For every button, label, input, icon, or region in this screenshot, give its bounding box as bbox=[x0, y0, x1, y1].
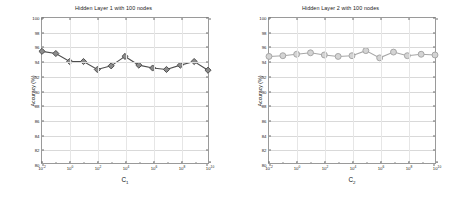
x-axis-tick-mark bbox=[437, 18, 438, 20]
gridline-vertical bbox=[381, 18, 382, 163]
data-point-marker bbox=[391, 49, 397, 55]
y-axis-tick-mark bbox=[433, 47, 435, 48]
gridline-horizontal bbox=[42, 62, 208, 63]
figure-two-panel-accuracy: Hidden Layer 1 with 100 nodes Accuracy (… bbox=[0, 0, 454, 198]
x-axis-tick-mark bbox=[126, 18, 127, 20]
x-axis-tick-mark bbox=[381, 18, 382, 20]
y-axis-tick-mark bbox=[269, 91, 271, 92]
gridline-vertical bbox=[182, 18, 183, 163]
gridline-horizontal bbox=[269, 136, 435, 137]
series-line-diamond bbox=[42, 18, 208, 163]
gridline-horizontal bbox=[42, 77, 208, 78]
gridline-horizontal bbox=[269, 62, 435, 63]
y-axis-tick-mark bbox=[206, 62, 208, 63]
y-axis-tick-mark bbox=[42, 150, 44, 151]
y-axis-tick-mark bbox=[206, 135, 208, 136]
gridline-horizontal bbox=[42, 33, 208, 34]
x-axis-tick-mark bbox=[297, 161, 298, 163]
x-axis-minor-tick bbox=[367, 162, 368, 163]
y-axis-tick-mark bbox=[42, 47, 44, 48]
gridline-horizontal bbox=[42, 92, 208, 93]
x-axis-tick-mark bbox=[409, 161, 410, 163]
gridline-horizontal bbox=[42, 47, 208, 48]
gridline-horizontal bbox=[269, 150, 435, 151]
x-axis-minor-tick bbox=[423, 162, 424, 163]
y-axis-tick-mark bbox=[206, 32, 208, 33]
y-axis-tick-label: 100 bbox=[32, 16, 39, 21]
x-axis-tick-mark bbox=[210, 161, 211, 163]
y-axis-tick-mark bbox=[269, 150, 271, 151]
x-axis-minor-tick bbox=[196, 162, 197, 163]
data-point-marker bbox=[108, 63, 114, 69]
y-axis-tick-label: 90 bbox=[35, 89, 40, 94]
data-point-marker bbox=[122, 53, 128, 59]
y-axis-tick-mark bbox=[206, 106, 208, 107]
y-axis-tick-label: 84 bbox=[35, 133, 40, 138]
y-axis-tick-mark bbox=[206, 91, 208, 92]
x-axis-tick-mark bbox=[42, 161, 43, 163]
y-axis-tick-label: 98 bbox=[35, 30, 40, 35]
x-axis-tick-mark bbox=[126, 161, 127, 163]
y-axis-tick-mark bbox=[269, 120, 271, 121]
y-axis-tick-label: 86 bbox=[262, 118, 267, 123]
x-axis-tick-mark bbox=[409, 18, 410, 20]
y-axis-tick-mark bbox=[269, 76, 271, 77]
x-axis-tick-label: 104 bbox=[123, 165, 130, 171]
x-axis-tick-mark bbox=[437, 161, 438, 163]
x-axis-tick-label: 100 bbox=[294, 165, 301, 171]
data-point-marker bbox=[335, 53, 341, 59]
x-axis-tick-mark bbox=[297, 18, 298, 20]
x-axis-tick-mark bbox=[154, 161, 155, 163]
y-axis-label-wrap: Accuracy (%) bbox=[249, 17, 259, 164]
y-axis-tick-label: 82 bbox=[35, 148, 40, 153]
data-point-marker bbox=[39, 48, 45, 54]
y-axis-label-wrap: Accuracy (%) bbox=[22, 17, 32, 164]
y-axis-tick-mark bbox=[269, 47, 271, 48]
data-point-marker bbox=[163, 66, 169, 72]
y-axis-tick-mark bbox=[433, 32, 435, 33]
x-axis-tick-mark bbox=[70, 18, 71, 20]
y-axis-tick-mark bbox=[433, 18, 435, 19]
y-axis-tick-label: 88 bbox=[35, 104, 40, 109]
gridline-horizontal bbox=[269, 92, 435, 93]
y-axis-tick-mark bbox=[42, 135, 44, 136]
x-axis-minor-tick bbox=[84, 162, 85, 163]
gridline-horizontal bbox=[42, 150, 208, 151]
chart-title: Hidden Layer 2 with 100 nodes bbox=[227, 5, 454, 11]
gridline-horizontal bbox=[42, 121, 208, 122]
x-axis-tick-mark bbox=[182, 18, 183, 20]
data-point-marker bbox=[266, 53, 272, 59]
y-axis-tick-mark bbox=[269, 62, 271, 63]
y-axis-tick-mark bbox=[433, 62, 435, 63]
x-axis-label: C1 bbox=[41, 176, 209, 185]
y-axis-tick-label: 100 bbox=[259, 16, 266, 21]
data-point-marker bbox=[53, 50, 59, 56]
plot-area: 8082848688909294969810010-21001021041061… bbox=[268, 17, 436, 164]
x-axis-tick-mark bbox=[381, 161, 382, 163]
x-axis-tick-mark bbox=[98, 18, 99, 20]
y-axis-tick-mark bbox=[269, 135, 271, 136]
gridline-vertical bbox=[409, 18, 410, 163]
gridline-horizontal bbox=[269, 121, 435, 122]
y-axis-tick-mark bbox=[433, 76, 435, 77]
y-axis-tick-label: 98 bbox=[262, 30, 267, 35]
x-axis-tick-mark bbox=[42, 18, 43, 20]
x-axis-label-sub: 1 bbox=[126, 180, 128, 185]
x-axis-minor-tick bbox=[395, 162, 396, 163]
x-axis-tick-mark bbox=[269, 161, 270, 163]
x-axis-tick-mark bbox=[353, 161, 354, 163]
y-axis-tick-label: 84 bbox=[262, 133, 267, 138]
gridline-horizontal bbox=[269, 77, 435, 78]
x-axis-label: C2 bbox=[268, 176, 436, 185]
x-axis-tick-label: 104 bbox=[350, 165, 357, 171]
y-axis-tick-mark bbox=[42, 32, 44, 33]
x-axis-tick-mark bbox=[210, 18, 211, 20]
x-axis-tick-label: 10-2 bbox=[38, 165, 46, 171]
y-axis-tick-mark bbox=[433, 106, 435, 107]
gridline-horizontal bbox=[42, 136, 208, 137]
x-axis-tick-label: 102 bbox=[322, 165, 329, 171]
x-axis-tick-mark bbox=[325, 18, 326, 20]
x-axis-tick-label: 106 bbox=[151, 165, 158, 171]
gridline-vertical bbox=[126, 18, 127, 163]
data-point-marker bbox=[363, 48, 369, 54]
